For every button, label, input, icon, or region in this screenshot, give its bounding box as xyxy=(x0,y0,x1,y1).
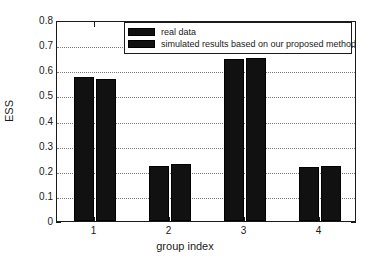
y-axis-tick-label: 0.3 xyxy=(39,141,53,152)
bar xyxy=(299,167,319,221)
legend-label: real data xyxy=(161,27,196,37)
bar xyxy=(149,166,169,221)
x-axis-label: group index xyxy=(0,240,370,252)
x-axis-tick-label: 1 xyxy=(84,225,104,236)
bar xyxy=(96,79,116,221)
y-axis-tick-label: 0.4 xyxy=(39,116,53,127)
legend-item: simulated results based on our proposed … xyxy=(128,38,348,49)
bar xyxy=(321,166,341,221)
x-axis-tick-label: 4 xyxy=(309,225,329,236)
y-axis-tick-label: 0.2 xyxy=(39,166,53,177)
y-axis-tick-label: 0.7 xyxy=(39,40,53,51)
bar xyxy=(171,164,191,221)
legend-swatch-icon xyxy=(128,28,155,36)
y-axis-tick-mark xyxy=(351,222,356,223)
x-axis-tick-mark xyxy=(319,217,320,222)
y-axis-tick-label: 0.8 xyxy=(39,15,53,26)
x-axis-tick-label: 2 xyxy=(159,225,179,236)
bar xyxy=(74,77,94,221)
y-axis-label: ESS xyxy=(3,81,15,141)
y-axis-tick-mark xyxy=(56,222,61,223)
y-axis-tick-label: 0 xyxy=(47,216,53,227)
legend-label: simulated results based on our proposed … xyxy=(161,39,356,49)
x-axis-tick-mark xyxy=(94,22,95,27)
x-axis-tick-mark xyxy=(169,217,170,222)
x-axis-tick-mark xyxy=(244,217,245,222)
bar xyxy=(224,59,244,221)
legend: real data simulated results based on our… xyxy=(124,22,352,54)
x-axis-tick-mark xyxy=(94,217,95,222)
figure-canvas: ESS 00.10.20.30.40.50.60.70.8 1234 group… xyxy=(0,0,370,262)
x-axis-tick-label: 3 xyxy=(234,225,254,236)
legend-swatch-icon xyxy=(128,40,155,48)
y-axis-tick-label: 0.5 xyxy=(39,90,53,101)
y-axis-tick-label: 0.6 xyxy=(39,65,53,76)
y-axis-tick-label: 0.1 xyxy=(39,191,53,202)
bar xyxy=(246,58,266,221)
legend-item: real data xyxy=(128,26,348,37)
